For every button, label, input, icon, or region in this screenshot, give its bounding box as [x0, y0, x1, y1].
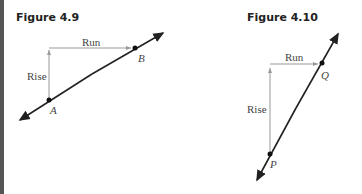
point-q [320, 61, 325, 66]
point-a [47, 98, 52, 103]
run-label: Run [285, 51, 304, 63]
figure-4-10: Rise Run P Q [247, 34, 338, 180]
rise-label: Rise [247, 103, 267, 115]
point-q-label: Q [321, 69, 329, 81]
point-p [268, 152, 273, 157]
line-arrow [296, 34, 338, 108]
figure-4-9: Rise Run A B [20, 33, 163, 120]
point-p-label: P [269, 158, 277, 170]
point-a-label: A [49, 104, 57, 116]
line-arrow [92, 33, 163, 74]
point-b-label: B [138, 52, 145, 64]
rise-label: Rise [27, 70, 47, 82]
slope-diagrams: Rise Run A B Rise Run P Q [0, 0, 362, 194]
point-b [133, 46, 138, 51]
run-label: Run [82, 36, 101, 48]
